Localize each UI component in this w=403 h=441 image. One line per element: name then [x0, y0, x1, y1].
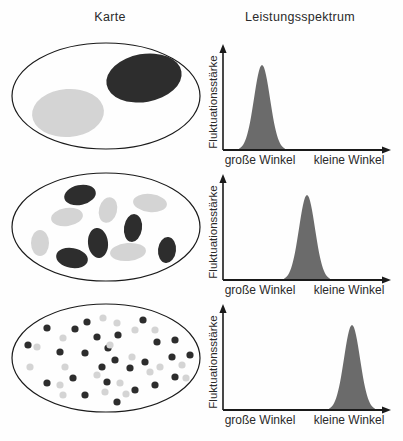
map-blob-light [113, 319, 120, 326]
map-blob-dark [69, 374, 76, 381]
y-axis-label: Fluktuationsstärke [208, 55, 219, 148]
map-blob-light [33, 343, 40, 350]
map-blob-light [106, 341, 113, 348]
map-blob-light [26, 363, 33, 370]
y-axis-arrow-icon [219, 304, 226, 313]
column-title-karte: Karte [60, 10, 160, 24]
map-blob-light [31, 230, 49, 256]
map-blob-dark [93, 333, 100, 340]
map-outline-ellipse [12, 173, 200, 281]
map-blob-light [128, 353, 135, 360]
x-axis-label-right: kleine Winkel [314, 413, 385, 427]
map-blob-dark [83, 318, 90, 325]
map-blob-dark [98, 363, 105, 370]
map-blob-dark [131, 386, 138, 393]
map-blob-dark [43, 379, 50, 386]
map-blob-dark [141, 358, 148, 365]
map-blob-dark [151, 381, 158, 388]
x-axis-label-left: große Winkel [225, 283, 296, 297]
map-medium-structures [6, 172, 206, 286]
spectrum-plot-3: Fluktuationsstärke große Winkel kleine W… [208, 300, 403, 430]
y-axis-arrow-icon [219, 174, 226, 183]
x-axis-label-left: große Winkel [225, 413, 296, 427]
map-blob-dark [102, 48, 185, 108]
map-blob-dark [113, 398, 120, 405]
spectrum-peak [329, 325, 375, 410]
map-blob-dark [168, 353, 175, 360]
map-blob-dark [55, 245, 90, 270]
map-blob-dark [86, 227, 109, 259]
map-blob-light [131, 326, 138, 333]
map-blob-dark [81, 391, 88, 398]
map-blob-dark [153, 338, 160, 345]
map-blob-light [59, 334, 66, 341]
map-blob-dark [111, 356, 118, 363]
map-blob-dark [71, 325, 78, 332]
map-blob-light [101, 388, 108, 395]
map-blob-light [109, 241, 146, 262]
map-blob-dark [171, 373, 178, 380]
map-blob-light [30, 87, 105, 140]
map-blob-dark [56, 348, 63, 355]
map-blob-light [132, 192, 168, 213]
map-blob-light [61, 363, 68, 370]
map-blob-dark [24, 341, 31, 348]
map-blob-dark [122, 213, 144, 243]
map-blob-dark [126, 364, 133, 371]
map-blob-light [93, 371, 100, 378]
map-blob-light [56, 381, 63, 388]
map-blob-dark [114, 331, 121, 338]
map-blob-light [122, 390, 129, 397]
map-blob-light [99, 314, 106, 321]
map-blob-group [24, 314, 193, 405]
map-blob-dark [171, 336, 178, 343]
y-axis-label: Fluktuationsstärke [208, 315, 219, 408]
x-axis-label-right: kleine Winkel [314, 283, 385, 297]
map-blob-light [151, 326, 158, 333]
map-blob-light [182, 374, 189, 381]
map-blob-dark [43, 324, 50, 331]
map-blob-group [30, 48, 185, 140]
map-blob-light [146, 368, 153, 375]
map-blob-dark [157, 236, 178, 264]
map-blob-light [116, 379, 123, 386]
map-blob-group [31, 182, 177, 271]
y-axis-arrow-icon [219, 44, 226, 53]
map-blob-dark [186, 351, 193, 358]
column-title-leistungsspektrum: Leistungsspektrum [225, 10, 375, 24]
y-axis-label: Fluktuationsstärke [208, 185, 219, 278]
diagram-page: Karte Leistungsspektrum Fluktuationsstär… [0, 0, 403, 441]
x-axis-label-left: große Winkel [225, 153, 296, 167]
map-blob-light [156, 363, 163, 370]
map-blob-light [59, 391, 66, 398]
x-axis-label-right: kleine Winkel [314, 153, 385, 167]
map-small-structures [6, 302, 206, 416]
map-blob-dark [139, 316, 146, 323]
spectrum-plot-2: Fluktuationsstärke große Winkel kleine W… [208, 170, 403, 300]
map-blob-light [178, 361, 185, 368]
map-blob-light [96, 195, 120, 225]
map-blob-dark [81, 349, 88, 356]
map-blob-dark [103, 378, 110, 385]
spectrum-peak [284, 195, 330, 280]
spectrum-peak [239, 65, 285, 150]
map-blob-light [50, 206, 84, 228]
map-large-structures [6, 42, 206, 156]
spectrum-plot-1: Fluktuationsstärke große Winkel kleine W… [208, 40, 403, 170]
map-blob-dark [62, 182, 97, 208]
